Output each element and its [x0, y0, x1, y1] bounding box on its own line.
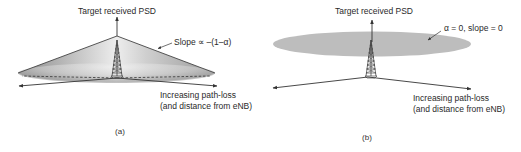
x-axis-label-line1: Increasing path-loss — [160, 90, 236, 100]
x-axis-arrow — [368, 77, 471, 89]
y-axis-label: Target received PSD — [335, 6, 413, 16]
slope-annotation: Slope ∝ –(1–α) — [174, 37, 231, 47]
caption-a: (a) — [115, 127, 125, 136]
slope-annotation: α = 0, slope = 0 — [444, 23, 503, 33]
y-axis-label: Target received PSD — [78, 6, 156, 16]
x-axis-label-line2: (and distance from eNB) — [413, 104, 505, 114]
caption-b: (b) — [362, 133, 372, 142]
x-axis-label-line2: (and distance from eNB) — [160, 101, 252, 111]
panel-b: Target received PSD α = 0, slope = 0 Inc… — [273, 6, 505, 142]
annotation-pointer — [158, 43, 172, 49]
x-axis-label-line1: Increasing path-loss — [413, 93, 489, 103]
panel-a: Target received PSD Slope ∝ –(1–α) Incre… — [18, 6, 252, 136]
left-axis-arrow — [273, 77, 368, 88]
power-control-diagram: Target received PSD Slope ∝ –(1–α) Incre… — [0, 0, 521, 152]
